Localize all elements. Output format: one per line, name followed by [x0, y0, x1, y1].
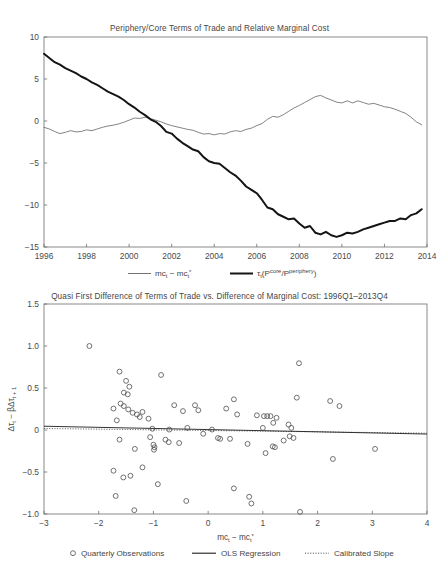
- scatter-point: [254, 413, 259, 418]
- scatter-point: [235, 412, 240, 417]
- scatter-point: [286, 422, 291, 427]
- scatter-point: [185, 425, 190, 430]
- scatter-point: [289, 425, 294, 430]
- bottom-y-axis: 1.51.00.50−0.5−1.0: [22, 299, 47, 519]
- legend-ols-regression-label: OLS Regression: [221, 549, 280, 558]
- bottom-axes-frame: [44, 304, 427, 514]
- scatter-point: [373, 446, 378, 451]
- scatter-point: [274, 415, 279, 420]
- scatter-point: [231, 397, 236, 402]
- scatter-point: [118, 401, 123, 406]
- top-x-axis: 1996199820002002200420062008201020122014: [35, 244, 437, 261]
- top-y-ticklabel: 10: [30, 32, 40, 42]
- scatter-point: [268, 414, 273, 419]
- scatter-points: [87, 344, 378, 515]
- top-y-ticklabel: 5: [34, 74, 39, 84]
- scatter-point: [140, 465, 145, 470]
- bottom-x-ticklabel: 2: [315, 518, 320, 528]
- top-x-ticklabel: 2012: [375, 251, 394, 261]
- scatter-point: [281, 438, 286, 443]
- bottom-panel-title: Quasi First Difference of Terms of Trade…: [0, 292, 439, 301]
- bottom-x-axis-title: mct − mct*: [217, 533, 254, 543]
- scatter-point: [159, 373, 164, 378]
- bottom-x-ticklabel: 0: [206, 518, 211, 528]
- scatter-point: [87, 344, 92, 349]
- top-axes-frame: [44, 37, 427, 247]
- scatter-point: [127, 384, 132, 389]
- scatter-point: [260, 425, 265, 430]
- top-y-ticklabel: −5: [29, 158, 39, 168]
- top-x-ticklabel: 2008: [290, 251, 309, 261]
- top-y-ticklabel: 0: [34, 116, 39, 126]
- scatter-point: [330, 457, 335, 462]
- bottom-panel: Quasi First Difference of Terms of Trade…: [0, 284, 439, 579]
- bottom-y-ticklabel: 1.0: [27, 341, 39, 351]
- scatter-point: [146, 416, 151, 421]
- top-series-mc-diff: [44, 95, 422, 134]
- top-panel-title: Periphery/Core Terms of Trade and Relati…: [0, 24, 439, 33]
- figure-container: Periphery/Core Terms of Trade and Relati…: [0, 0, 439, 579]
- top-x-ticklabel: 2000: [120, 251, 139, 261]
- top-x-ticklabel: 2014: [418, 251, 437, 261]
- bottom-x-ticklabel: −2: [94, 518, 104, 528]
- scatter-point: [114, 418, 119, 423]
- bottom-y-ticklabel: −1.0: [22, 509, 39, 519]
- scatter-point: [247, 494, 252, 499]
- scatter-point: [166, 440, 171, 445]
- scatter-point: [263, 451, 268, 456]
- scatter-point: [117, 369, 122, 374]
- scatter-point: [297, 361, 302, 366]
- scatter-point: [231, 486, 236, 491]
- scatter-point: [271, 420, 276, 425]
- scatter-point: [111, 406, 116, 411]
- bottom-plot-area: 1.51.00.50−0.5−1.0−3−2−101234: [22, 299, 429, 527]
- bottom-chart-svg: 1.51.00.50−0.5−1.0−3−2−101234mct − mct*Δ…: [0, 284, 439, 579]
- bottom-x-ticklabel: 3: [370, 518, 375, 528]
- top-y-ticklabel: −10: [25, 200, 40, 210]
- scatter-point: [181, 409, 186, 414]
- scatter-point: [148, 435, 153, 440]
- bottom-y-axis-title: Δτt − βΔτt + 1: [7, 387, 17, 432]
- top-plot-area: 1050−5−10−151996199820002002200420062008…: [25, 32, 437, 260]
- scatter-point: [132, 508, 137, 513]
- legend-quarterly-observations-marker: [71, 551, 76, 556]
- bottom-legend: Quarterly ObservationsOLS RegressionCali…: [71, 549, 395, 558]
- scatter-point: [163, 437, 168, 442]
- scatter-point: [121, 475, 126, 480]
- scatter-point: [113, 493, 118, 498]
- scatter-point: [228, 436, 233, 441]
- scatter-point: [193, 403, 198, 408]
- scatter-point: [128, 473, 133, 478]
- top-x-ticklabel: 2004: [205, 251, 224, 261]
- scatter-point: [126, 407, 131, 412]
- bottom-x-axis: −3−2−101234: [39, 511, 429, 528]
- scatter-point: [111, 468, 116, 473]
- scatter-point: [201, 431, 206, 436]
- top-panel: Periphery/Core Terms of Trade and Relati…: [0, 0, 439, 290]
- legend-tau-label: τt(Pcore/Pperiphery): [257, 268, 317, 280]
- scatter-point: [249, 501, 254, 506]
- scatter-point: [328, 399, 333, 404]
- top-x-ticklabel: 1996: [35, 251, 54, 261]
- legend-quarterly-observations-label: Quarterly Observations: [81, 549, 164, 558]
- bottom-x-ticklabel: 4: [425, 518, 430, 528]
- scatter-point: [245, 441, 250, 446]
- scatter-point: [177, 441, 182, 446]
- top-legend: mct − mct*τt(Pcore/Pperiphery): [128, 268, 317, 280]
- bottom-y-ticklabel: −0.5: [22, 467, 39, 477]
- scatter-point: [337, 404, 342, 409]
- scatter-point: [124, 378, 129, 383]
- top-series-tau: [44, 54, 422, 237]
- scatter-point: [140, 409, 145, 414]
- scatter-point: [184, 499, 189, 504]
- bottom-x-ticklabel: 1: [261, 518, 266, 528]
- scatter-point: [117, 437, 122, 442]
- bottom-x-ticklabel: −3: [39, 518, 49, 528]
- scatter-point: [196, 408, 201, 413]
- bottom-y-ticklabel: 0: [34, 425, 39, 435]
- ols-regression-line: [44, 426, 427, 434]
- scatter-point: [155, 482, 160, 487]
- top-x-ticklabel: 2010: [333, 251, 352, 261]
- scatter-point: [172, 403, 177, 408]
- top-x-ticklabel: 2006: [247, 251, 266, 261]
